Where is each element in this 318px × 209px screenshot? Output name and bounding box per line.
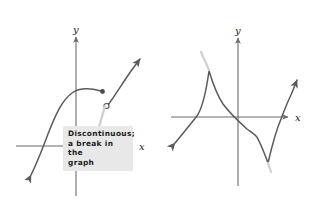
figure-root: y x Discontinuous; a break in the graph xyxy=(0,0,318,209)
y-axis-label: y xyxy=(72,24,79,35)
panel-discontinuous-graph: y x Discontinuous; a break in the graph xyxy=(0,0,159,209)
callout-discontinuous: Discontinuous; a break in the graph xyxy=(63,126,133,171)
callout-leader-line xyxy=(99,106,105,127)
panel-sharp-corner-graph: y x Sharp corner Sharp corner xyxy=(159,0,318,209)
y-axis-label: y xyxy=(234,25,241,36)
closed-endpoint-dot xyxy=(100,89,105,94)
curve-right-branch xyxy=(108,59,140,105)
callout-leader-line-bottom xyxy=(268,163,271,172)
x-axis-label: x xyxy=(139,141,145,152)
callout-leader-line-top xyxy=(201,52,209,70)
x-axis-label: x xyxy=(295,112,301,123)
